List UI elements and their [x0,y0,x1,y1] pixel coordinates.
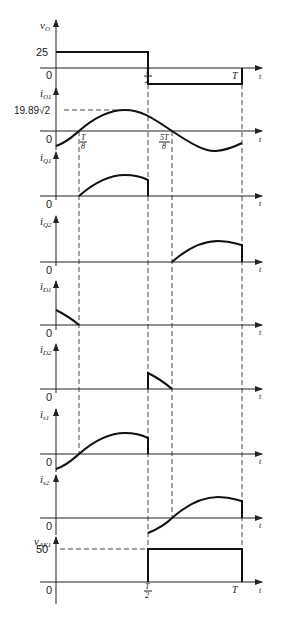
panel-is1: is1 0 t [40,408,262,472]
svg-text:iD1: iD1 [40,280,52,294]
svg-text:is1: is1 [40,408,49,422]
svg-text:t: t [259,457,262,466]
panel-iO1: iO1 19.89√2 0 t T 8 5T 8 [14,87,262,151]
panel-iD1: iD1 0 t [40,280,262,339]
svg-text:0: 0 [46,456,52,468]
svg-text:0: 0 [46,520,52,532]
svg-text:T: T [81,133,86,142]
svg-text:iQ2: iQ2 [40,215,52,229]
svg-text:8: 8 [162,142,166,151]
svg-text:0: 0 [46,391,52,403]
svg-text:0: 0 [46,133,52,145]
time-guides [79,84,242,582]
vO-label: vO [40,19,50,33]
svg-text:8: 8 [81,142,85,151]
svg-text:0: 0 [46,198,52,210]
svg-text:T: T [232,584,239,595]
svg-text:0: 0 [46,584,52,596]
svg-text:iQ1: iQ1 [40,151,52,165]
svg-text:t: t [259,586,262,595]
panel-iQ1: iQ1 0 t [40,151,262,210]
svg-text:0: 0 [46,264,52,276]
svg-text:t: t [259,328,262,337]
svg-text:t: t [259,199,262,208]
svg-text:5T: 5T [160,133,169,142]
svg-text:is2: is2 [40,473,50,487]
waveform-diagram: vO 25 0 t T 2 T iO1 19.89√2 0 t T 8 5T 8… [0,0,281,622]
period-label: T [232,70,239,81]
svg-text:t: t [259,392,262,401]
svg-text:50: 50 [36,543,48,555]
panel-iQ2: iQ2 0 t [40,215,262,276]
svg-text:0: 0 [46,327,52,339]
svg-text:iO1: iO1 [40,87,52,101]
svg-text:t: t [259,265,262,274]
half-period-label: T [145,67,150,76]
panel-is2: is2 0 t [40,473,262,535]
svg-text:2: 2 [145,591,149,600]
level-0: 0 [46,69,52,81]
svg-text:T: T [145,582,150,591]
svg-text:t: t [259,135,262,144]
svg-text:iD2: iD2 [40,343,52,357]
t-axis-label: t [259,72,262,81]
svg-text:t: t [259,521,262,530]
panel-vAK1: vAK1 50 0 t T 2 T [34,535,262,604]
level-25: 25 [36,46,48,58]
panel-vO: vO 25 0 t T 2 T [36,19,262,92]
svg-text:2: 2 [145,76,149,85]
panel-iD2: iD2 0 t [40,343,262,403]
peak-value: 19.89√2 [14,105,51,116]
